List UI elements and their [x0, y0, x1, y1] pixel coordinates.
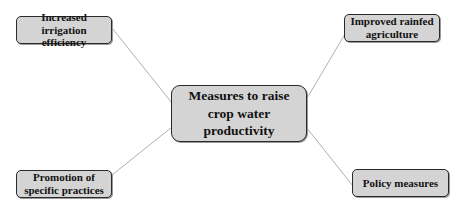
central-label: Measures to raise crop water productivit… [180, 87, 298, 140]
connector-bottom-left [112, 127, 172, 175]
node-label: Improved rainfed agriculture [349, 15, 435, 40]
connector-top-right [306, 34, 345, 100]
node-central-topic: Measures to raise crop water productivit… [171, 85, 307, 142]
node-improved-rainfed-agriculture: Improved rainfed agriculture [344, 14, 440, 42]
node-promotion-of-specific-practices: Promotion of specific practices [16, 170, 112, 198]
node-label: Increased irrigation efficiency [21, 11, 107, 49]
connector-top-left [112, 28, 172, 103]
connector-bottom-right [306, 127, 353, 186]
node-label: Policy measures [363, 177, 438, 190]
node-increased-irrigation-efficiency: Increased irrigation efficiency [16, 16, 112, 44]
node-policy-measures: Policy measures [352, 169, 449, 197]
node-label: Promotion of specific practices [21, 171, 107, 196]
